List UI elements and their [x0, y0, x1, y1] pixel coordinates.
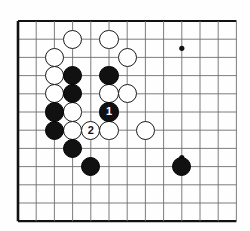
stone-white	[118, 84, 137, 103]
stone-white	[63, 102, 82, 121]
stone-black	[63, 139, 82, 158]
star-point	[179, 46, 184, 51]
go-diagram: 21	[0, 0, 250, 231]
stone-white	[136, 121, 155, 140]
goban-grid	[0, 0, 250, 231]
stone-white	[45, 48, 64, 67]
stone-white	[118, 48, 137, 67]
stone-black	[99, 66, 118, 85]
stone-white	[99, 84, 118, 103]
stone-white	[63, 30, 82, 49]
stone-white	[99, 30, 118, 49]
stone-white	[45, 66, 64, 85]
stone-black	[45, 121, 64, 140]
stone-white-move-2: 2	[81, 121, 100, 140]
stone-black	[45, 102, 64, 121]
stone-white	[99, 121, 118, 140]
move-number-label: 2	[82, 122, 99, 139]
stone-white	[63, 121, 82, 140]
move-number-label: 1	[100, 103, 117, 120]
stone-black-move-1: 1	[99, 102, 118, 121]
